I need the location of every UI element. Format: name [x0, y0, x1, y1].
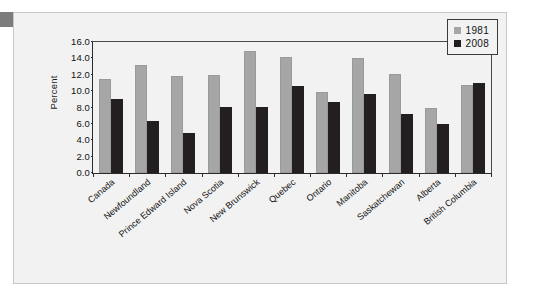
legend-label-2008: 2008	[466, 38, 489, 49]
plot-axes	[92, 41, 492, 174]
y-tick-label: 8.0	[44, 101, 90, 112]
y-tick-label: 14.0	[44, 52, 90, 63]
bar-2008	[147, 121, 159, 173]
legend-item-1981: 1981	[454, 24, 489, 37]
corner-tab-marker	[0, 12, 13, 27]
plot-area-wrapper: Percent 16.014.012.010.08.06.04.02.00.0 …	[14, 13, 506, 283]
legend-swatch-2008-icon	[454, 40, 461, 47]
bar-group	[455, 42, 491, 173]
bar-2008	[292, 86, 304, 173]
y-tick-label: 4.0	[44, 134, 90, 145]
bar-1981	[99, 79, 111, 173]
y-tick-label: 2.0	[44, 150, 90, 161]
bar-1981	[352, 58, 364, 173]
chart-legend: 1981 2008	[447, 19, 498, 55]
bar-group	[383, 42, 419, 173]
legend-label-1981: 1981	[466, 25, 489, 36]
bar-1981	[425, 108, 437, 173]
bar-2008	[220, 107, 232, 173]
legend-item-2008: 2008	[454, 37, 489, 50]
bar-group	[310, 42, 346, 173]
bar-1981	[280, 57, 292, 173]
bar-2008	[183, 133, 195, 173]
bar-1981	[208, 75, 220, 173]
y-tick-label: 16.0	[44, 36, 90, 47]
bar-group	[419, 42, 455, 173]
bar-group	[238, 42, 274, 173]
bar-1981	[389, 74, 401, 173]
bar-1981	[135, 65, 147, 173]
y-tick-label: 0.0	[44, 167, 90, 178]
legend-swatch-1981-icon	[454, 27, 461, 34]
bar-1981	[461, 85, 473, 173]
bar-group	[93, 42, 129, 173]
bar-1981	[171, 76, 183, 173]
bar-group	[165, 42, 201, 173]
bar-group	[346, 42, 382, 173]
bar-1981	[244, 51, 256, 173]
bar-2008	[473, 83, 485, 173]
x-tick-mark	[491, 173, 492, 177]
bar-group	[202, 42, 238, 173]
y-tick-label: 6.0	[44, 117, 90, 128]
bar-series-container	[93, 42, 491, 173]
bar-1981	[316, 92, 328, 173]
bar-2008	[401, 114, 413, 173]
y-tick-label: 12.0	[44, 68, 90, 79]
bar-group	[274, 42, 310, 173]
bar-2008	[437, 124, 449, 173]
bar-2008	[256, 107, 268, 173]
bar-2008	[111, 99, 123, 174]
screenshot-root: Percent 16.014.012.010.08.06.04.02.00.0 …	[0, 0, 540, 295]
chart-figure-frame: Percent 16.014.012.010.08.06.04.02.00.0 …	[13, 12, 507, 284]
bar-2008	[364, 94, 376, 173]
y-tick-label: 10.0	[44, 85, 90, 96]
bar-2008	[328, 102, 340, 173]
bar-group	[129, 42, 165, 173]
x-axis-category-labels: CanadaNewfoundlandPrince Edward IslandNo…	[92, 177, 490, 267]
